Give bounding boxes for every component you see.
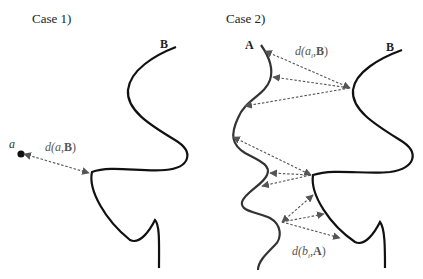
case2-curve-a-label: A <box>245 39 254 51</box>
dist-close: ) <box>72 140 76 154</box>
point-a <box>17 150 24 157</box>
case1-title: Case 1) <box>32 12 71 25</box>
dist-arg2: B <box>316 44 324 58</box>
dist-fn: d( <box>292 244 302 258</box>
case1-curve-b <box>91 47 187 268</box>
case1-distance-label: d(a,B) <box>45 141 76 153</box>
dist-fn: d( <box>295 44 305 58</box>
dist-fn: d( <box>45 140 55 154</box>
case2-curve-b <box>313 50 413 268</box>
arrows-b-to-a <box>282 195 340 238</box>
case2-distance-ai-b-label: d(ai,B) <box>295 45 328 60</box>
case1-distance-arrow <box>24 154 89 173</box>
case2-title: Case 2) <box>226 12 265 25</box>
point-a-label: a <box>9 138 15 150</box>
dist-close: ) <box>324 44 328 58</box>
dist-arg2: B <box>64 140 72 154</box>
dist-close: ) <box>322 244 326 258</box>
distance-diagram: Case 1) B a d(a,B) Case 2) A B d(ai,B) d… <box>0 0 423 279</box>
case2-distance-bi-a-label: d(bi,A) <box>292 245 326 260</box>
case2-curve-b-label: B <box>386 41 394 53</box>
case1-curve-b-label: B <box>160 38 168 50</box>
dist-arg2: A <box>313 244 322 258</box>
case2-curve-a <box>233 45 279 270</box>
arrows-a-to-b <box>233 51 350 186</box>
